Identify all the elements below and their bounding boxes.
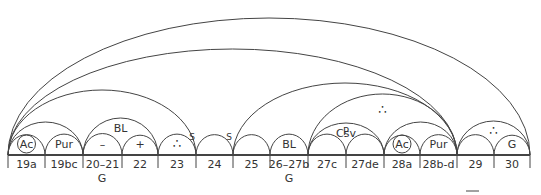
cell-label: 25 xyxy=(245,158,259,171)
cell-label: 26–27b xyxy=(269,158,309,171)
cell-symbol: Ac xyxy=(395,138,408,151)
cell-label: 28b-d xyxy=(423,158,455,171)
group-label: G xyxy=(285,172,294,185)
span-arc xyxy=(8,49,457,155)
cell-label: 20–21 xyxy=(86,158,120,171)
cell-label: 30 xyxy=(505,158,519,171)
node-mark: S xyxy=(226,132,232,142)
cell-label: 23 xyxy=(170,158,184,171)
cell-symbol: G xyxy=(508,138,517,151)
cell-symbol: Pur xyxy=(55,138,73,151)
node-mark: P xyxy=(343,126,349,137)
cell-symbol: – xyxy=(100,138,106,151)
cell-label: 27c xyxy=(317,158,337,171)
cell-symbol: Pur xyxy=(430,138,448,151)
cell-symbol: Ac xyxy=(20,138,33,151)
cell-symbol: BL xyxy=(282,138,297,151)
cell-symbol: ∴ xyxy=(173,136,181,151)
cell-symbol: + xyxy=(135,138,144,151)
span-label: ∴ xyxy=(489,123,497,138)
group-label: G xyxy=(98,172,107,185)
span-arc xyxy=(233,83,457,155)
arc-diagram: 19aAc19bcPur20–21–22+23∴242526–27bBL27c2… xyxy=(0,0,541,195)
label-layer: 19aAc19bcPur20–21–22+23∴242526–27bBL27c2… xyxy=(16,102,519,185)
node-mark: S xyxy=(189,132,195,142)
cell-label: 22 xyxy=(133,158,147,171)
cell-label: 27de xyxy=(351,158,379,171)
arc-layer xyxy=(8,18,530,155)
span-arc xyxy=(8,18,530,155)
cell-label: 28a xyxy=(392,158,413,171)
cell-label: 24 xyxy=(208,158,222,171)
cell-label: 19a xyxy=(16,158,37,171)
span-label: BL xyxy=(114,122,129,135)
cell-label: 19bc xyxy=(50,158,77,171)
span-label: ∴ xyxy=(378,102,386,117)
cell-label: 29 xyxy=(469,158,483,171)
cell-arc xyxy=(233,135,270,155)
